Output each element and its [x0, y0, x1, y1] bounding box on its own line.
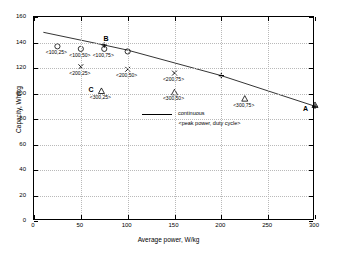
y-axis-tick [34, 145, 38, 146]
gridline-vertical [175, 17, 176, 219]
annotation-b: B [104, 34, 109, 41]
gridline-horizontal [34, 170, 313, 171]
y-axis-tick [309, 94, 313, 95]
x-axis-title: Average power, W/kg [0, 236, 337, 243]
x-axis-tick [128, 17, 129, 21]
y-axis-tick [34, 94, 38, 95]
y-axis-tick-label: 140 [2, 39, 26, 45]
annotation-a: A [303, 104, 308, 111]
y-axis-tick [34, 68, 38, 69]
y-axis-tick [34, 43, 38, 44]
y-axis-tick [309, 68, 313, 69]
y-axis-tick-label: 0 [2, 217, 26, 223]
x-axis-tick [81, 17, 82, 21]
y-axis-tick [34, 17, 38, 18]
y-axis-tick-label: 100 [2, 90, 26, 96]
x-axis-tick [175, 215, 176, 219]
gridline-vertical [128, 17, 129, 219]
data-point-label: <300,50> [163, 96, 184, 101]
gridline-horizontal [34, 196, 313, 197]
gridline-vertical [81, 17, 82, 219]
x-axis-tick [315, 17, 316, 21]
x-axis-tick [81, 215, 82, 219]
x-axis-tick [221, 215, 222, 219]
data-point-label: <300,25> [90, 95, 111, 100]
y-axis-tick-label: 60 [2, 141, 26, 147]
x-axis-tick [175, 17, 176, 21]
y-axis-tick-label: 80 [2, 115, 26, 121]
y-axis-tick [309, 17, 313, 18]
legend-subtitle: <peak power, duty cycle> [142, 120, 277, 126]
x-axis-tick [221, 17, 222, 21]
y-axis-tick [34, 196, 38, 197]
data-point-label: <100,75> [93, 53, 114, 58]
x-axis-tick-label: 100 [107, 222, 147, 228]
x-axis-tick [268, 17, 269, 21]
x-axis-tick-label: 150 [154, 222, 194, 228]
data-point-circle [55, 44, 60, 49]
x-axis-tick [128, 215, 129, 219]
gridline-vertical [221, 17, 222, 219]
data-point-label: <200,50> [116, 73, 137, 78]
y-axis-tick-label: 160 [2, 13, 26, 19]
y-axis-tick [34, 119, 38, 120]
data-point-label: <300,75> [233, 103, 254, 108]
x-axis-tick [34, 215, 35, 219]
y-axis-tick [309, 145, 313, 146]
y-axis-tick-label: 40 [2, 166, 26, 172]
legend-line-swatch [142, 114, 172, 115]
annotation-c: C [89, 85, 94, 92]
y-axis-tick [309, 170, 313, 171]
gridline-horizontal [34, 145, 313, 146]
y-axis-tick [34, 170, 38, 171]
y-axis-tick [309, 119, 313, 120]
data-point-plus [312, 104, 317, 109]
y-axis-tick [309, 43, 313, 44]
gridline-vertical [268, 17, 269, 219]
y-axis-tick-label: 120 [2, 64, 26, 70]
data-point-label: <200,75> [163, 77, 184, 82]
x-axis-tick [315, 215, 316, 219]
plot-area [33, 16, 314, 220]
y-axis-tick-label: 20 [2, 192, 26, 198]
x-axis-tick-label: 300 [294, 222, 334, 228]
x-axis-tick [268, 215, 269, 219]
gridline-horizontal [34, 43, 313, 44]
data-point-label: <100,50> [69, 53, 90, 58]
figure-container: Capacity, Wh/kg Average power, W/kg cont… [0, 0, 337, 266]
legend-label-continuous: continuous [178, 110, 205, 116]
x-axis-tick-label: 200 [200, 222, 240, 228]
data-point-label: <100,25> [46, 50, 67, 55]
data-point-triangle [242, 96, 248, 102]
x-axis-tick-label: 50 [60, 222, 100, 228]
data-point-label: <200,25> [69, 71, 90, 76]
x-axis-tick-label: 250 [247, 222, 287, 228]
y-axis-tick [309, 196, 313, 197]
